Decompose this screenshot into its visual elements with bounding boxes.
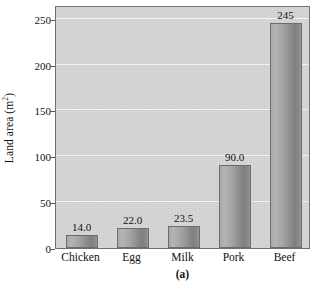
bar-value-label: 90.0 bbox=[205, 151, 265, 163]
figure-caption: (a) bbox=[55, 268, 310, 280]
y-axis-title-text: Land area (m2) bbox=[3, 93, 15, 163]
y-axis-tick-mark bbox=[50, 249, 55, 250]
y-axis-title-superscript: 2 bbox=[1, 97, 10, 101]
y-axis-tick-labels: 050100150200250 bbox=[18, 0, 51, 289]
bar-value-label: 245 bbox=[256, 9, 311, 21]
y-axis-title-tail: ) bbox=[3, 93, 15, 97]
y-axis-tick-label: 200 bbox=[19, 60, 51, 72]
x-axis-tick-label-beef: Beef bbox=[250, 251, 320, 263]
y-axis-tick-label: 250 bbox=[19, 14, 51, 26]
bar-egg bbox=[117, 228, 149, 248]
y-axis-tick-label: 150 bbox=[19, 105, 51, 117]
y-axis-tick-label: 100 bbox=[19, 151, 51, 163]
y-axis-title-main: Land area (m bbox=[3, 101, 15, 164]
bar-chart-figure: Land area (m2) 050100150200250 14.022.02… bbox=[0, 0, 321, 289]
bar-value-label: 23.5 bbox=[154, 212, 214, 224]
plot-area: 14.022.023.590.0245 bbox=[55, 6, 310, 249]
bar-chicken bbox=[66, 235, 98, 248]
x-axis-tick-labels: ChickenEggMilkPorkBeef bbox=[55, 251, 310, 269]
y-axis-title: Land area (m2) bbox=[0, 0, 18, 256]
bar-pork bbox=[219, 165, 251, 248]
bar-milk bbox=[168, 226, 200, 248]
bar-beef bbox=[270, 23, 302, 248]
y-axis-tick-label: 50 bbox=[19, 197, 51, 209]
